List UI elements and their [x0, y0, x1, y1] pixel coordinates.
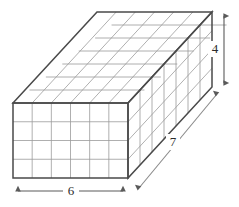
prism-figure: 6 4 7: [0, 0, 239, 207]
depth-dimension-label: 7: [170, 134, 177, 149]
height-dimension-label: 4: [212, 41, 219, 56]
prism-diagram: 6 4 7: [0, 0, 239, 207]
width-dimension-label: 6: [68, 183, 75, 198]
